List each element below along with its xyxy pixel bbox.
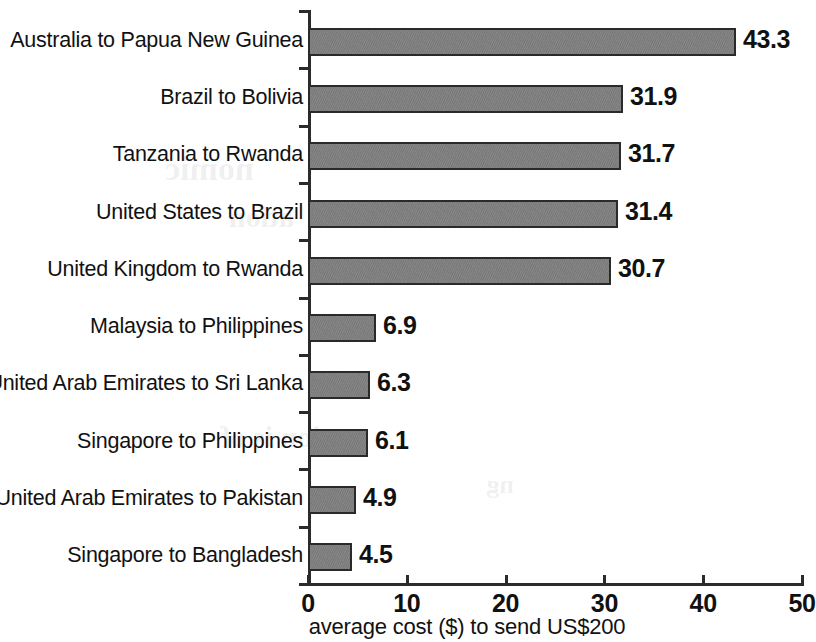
category-label: United Kingdom to Rwanda [47, 257, 303, 282]
category-label: Australia to Papua New Guinea [10, 28, 303, 53]
x-axis-label: average cost ($) to send US$200 [0, 614, 814, 640]
category-label: Singapore to Philippines [77, 429, 303, 454]
value-label: 6.9 [383, 311, 417, 340]
y-axis-tick [299, 297, 309, 300]
x-axis-tick [801, 575, 804, 586]
category-label: Tanzania to Rwanda [113, 142, 303, 167]
bar [308, 200, 618, 228]
y-axis-tick [299, 411, 309, 414]
y-axis-tick [299, 526, 309, 529]
category-label: Brazil to Bolivia [160, 85, 303, 110]
bar [308, 543, 352, 571]
category-label: Singapore to Bangladesh [67, 543, 303, 568]
bar [308, 142, 621, 170]
value-label: 4.5 [359, 540, 393, 569]
category-label: United Arab Emirates to Pakistan [0, 486, 303, 511]
y-axis-tick [299, 67, 309, 70]
x-axis-tick [406, 575, 409, 586]
bar [308, 429, 368, 457]
value-label: 43.3 [743, 25, 790, 54]
x-axis-tick [603, 575, 606, 586]
y-axis-tick [299, 125, 309, 128]
bar [308, 257, 611, 285]
bar [308, 28, 736, 56]
category-label: United States to Brazil [96, 200, 303, 225]
bar [308, 371, 370, 399]
value-label: 4.9 [363, 483, 397, 512]
bar [308, 85, 623, 113]
x-axis-tick [505, 575, 508, 586]
x-axis-tick [307, 575, 310, 586]
category-label: Malaysia to Philippines [90, 314, 303, 339]
y-axis-tick [299, 468, 309, 471]
bar [308, 486, 356, 514]
value-label: 31.7 [628, 139, 675, 168]
y-axis-tick [299, 239, 309, 242]
x-axis-line [308, 583, 802, 586]
y-axis-tick [299, 10, 309, 13]
y-axis-tick [299, 354, 309, 357]
value-label: 6.1 [375, 426, 409, 455]
category-label: United Arab Emirates to Sri Lanka [0, 371, 303, 396]
bar [308, 314, 376, 342]
value-label: 30.7 [618, 254, 665, 283]
value-label: 31.4 [625, 197, 672, 226]
value-label: 31.9 [630, 82, 677, 111]
value-label: 6.3 [377, 368, 411, 397]
x-axis-tick [702, 575, 705, 586]
y-axis-tick [299, 182, 309, 185]
